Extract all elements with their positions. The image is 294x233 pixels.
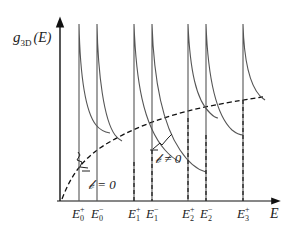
x-axis-label: E [269, 206, 279, 221]
density-of-states-diagram: g3D(E) E 𝒷 = 0 𝒷 ≠ 0 E0+ E0− E1+ E1− E2+… [0, 0, 294, 233]
svg-text:E1−: E1− [145, 205, 159, 223]
svg-text:E3+: E3+ [236, 205, 250, 223]
b-zero-label: 𝒷 = 0 [88, 177, 116, 192]
svg-text:E0−: E0− [90, 205, 104, 223]
y-axis-label: g3D(E) [13, 29, 52, 48]
svg-text:E0+: E0+ [71, 205, 85, 223]
svg-text:E1+: E1+ [127, 205, 141, 223]
b-nonzero-label: 𝒷 ≠ 0 [155, 151, 182, 166]
landau-level-branches [79, 24, 265, 201]
svg-text:E2−: E2− [199, 205, 213, 223]
svg-text:E2+: E2+ [181, 205, 195, 223]
tick-labels: E0+ E0− E1+ E1− E2+ E2− E3+ [71, 205, 250, 223]
